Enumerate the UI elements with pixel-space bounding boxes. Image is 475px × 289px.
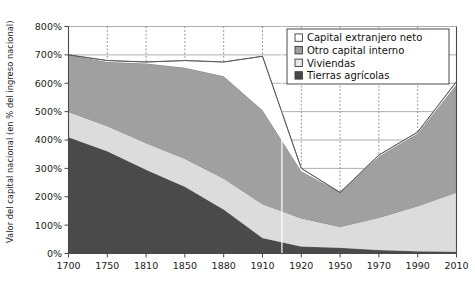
y-tick-label: 0% (47, 248, 62, 259)
x-tick-label: 1950 (328, 260, 352, 271)
legend-swatch-0 (295, 34, 302, 41)
legend-swatch-1 (295, 47, 302, 54)
x-axis-ticks-group: 1700175018101850188019101920195019701990… (56, 254, 468, 272)
x-tick-label: 2010 (444, 260, 468, 271)
x-tick-label: 1750 (95, 260, 119, 271)
chart-figure: 0%100%200%300%400%500%600%700%800% 17001… (0, 0, 475, 289)
x-tick-label: 1910 (250, 260, 274, 271)
y-tick-label: 800% (35, 21, 62, 32)
x-tick-label: 1850 (173, 260, 197, 271)
y-tick-label: 200% (35, 191, 62, 202)
x-tick-label: 1700 (56, 260, 80, 271)
y-axis-ticks-group: 0%100%200%300%400%500%600%700%800% (35, 21, 69, 259)
legend-label-2: Viviendas (307, 58, 355, 69)
y-tick-label: 700% (35, 49, 62, 60)
y-tick-label: 400% (35, 134, 62, 145)
y-tick-label: 600% (35, 78, 62, 89)
x-tick-label: 1990 (406, 260, 430, 271)
legend-label-1: Otro capital interno (307, 45, 404, 56)
chart-legend: Capital extranjero netoOtro capital inte… (287, 29, 449, 84)
y-tick-label: 500% (35, 106, 62, 117)
x-tick-label: 1810 (134, 260, 158, 271)
area-series-group (69, 55, 457, 254)
y-tick-label: 300% (35, 163, 62, 174)
legend-swatch-3 (295, 72, 302, 79)
x-tick-label: 1880 (212, 260, 236, 271)
stacked-area-chart: 0%100%200%300%400%500%600%700%800% 17001… (0, 0, 475, 289)
y-axis-title: Valor del capital nacional (en % del ing… (5, 21, 15, 243)
x-tick-label: 1920 (289, 260, 313, 271)
legend-label-0: Capital extranjero neto (307, 32, 422, 43)
x-tick-label: 1970 (367, 260, 391, 271)
legend-label-3: Tierras agrícolas (306, 70, 389, 81)
legend-swatch-2 (295, 59, 302, 66)
y-tick-label: 100% (35, 220, 62, 231)
